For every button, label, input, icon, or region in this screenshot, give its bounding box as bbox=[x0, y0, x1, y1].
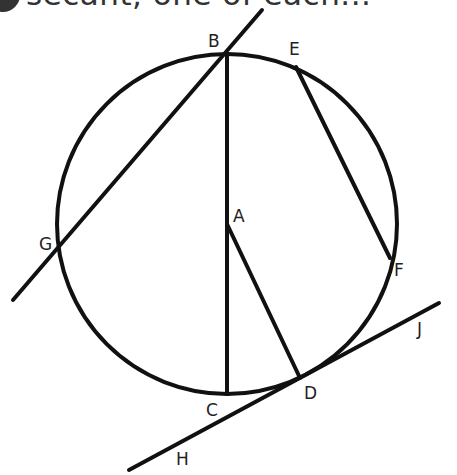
diagram-labels: ABCDEFGHJ bbox=[39, 31, 422, 469]
point-label-d: D bbox=[304, 383, 317, 403]
radius-AD bbox=[227, 224, 300, 378]
point-label-b: B bbox=[208, 31, 220, 51]
secant-BG bbox=[13, 10, 262, 300]
chord-EF bbox=[296, 67, 390, 258]
diagram-shapes bbox=[13, 10, 439, 470]
point-label-g: G bbox=[39, 234, 52, 254]
point-label-a: A bbox=[233, 206, 245, 226]
circle-geometry-diagram: ABCDEFGHJ bbox=[0, 0, 457, 475]
point-label-j: J bbox=[416, 319, 422, 339]
point-label-h: H bbox=[176, 449, 189, 469]
point-label-c: C bbox=[206, 400, 218, 420]
point-label-e: E bbox=[289, 39, 300, 59]
point-label-f: F bbox=[394, 260, 404, 280]
